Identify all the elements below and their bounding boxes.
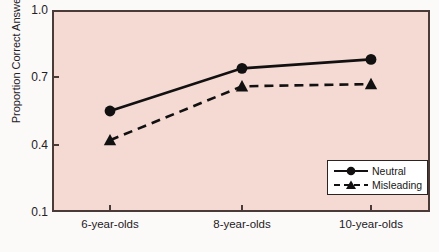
- x-tick-label-10-year-olds: 10-year-olds: [339, 218, 403, 230]
- x-tick-label-6-year-olds: 6-year-olds: [81, 218, 139, 230]
- y-axis-title: Proportion Correct Answers: [10, 0, 22, 136]
- x-tick-label-8-year-olds: 8-year-olds: [213, 218, 271, 230]
- x-tick-mark-8-year-olds: [241, 205, 243, 212]
- chart-figure: 1.0 0.7 0.4 0.1 Proportion Correct Answe…: [0, 0, 439, 252]
- legend-sample-solid-circle-icon: [333, 164, 369, 178]
- legend-label-neutral: Neutral: [372, 165, 406, 177]
- x-tick-mark-6-year-olds: [109, 205, 111, 212]
- legend-label-misleading: Misleading: [372, 179, 422, 191]
- x-tick-mark-10-year-olds: [370, 205, 372, 212]
- legend-entry-misleading: Misleading: [333, 178, 422, 192]
- y-tick-mark-0.4: [52, 144, 59, 146]
- y-tick-label-0.4: 0.4: [14, 139, 48, 151]
- legend: Neutral Misleading: [327, 160, 428, 195]
- legend-entry-neutral: Neutral: [333, 164, 422, 178]
- y-tick-mark-0.7: [52, 76, 59, 78]
- legend-sample-dashed-triangle-icon: [333, 178, 369, 192]
- y-tick-label-0.1: 0.1: [14, 206, 48, 218]
